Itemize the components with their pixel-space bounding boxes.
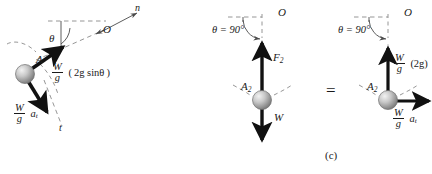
- label-axis-n: n: [135, 3, 140, 13]
- tangent-axis-line-t: [44, 80, 62, 126]
- right-label-angle: θ = 90°: [338, 25, 370, 36]
- physics-figure-c: A θ O n t W g ( 2g sinθ ) W g at θ = 90°…: [0, 0, 432, 174]
- right-label-force-right: W g at: [393, 108, 417, 130]
- right-force-right-expression: a: [409, 114, 414, 125]
- label-point-A: A: [36, 54, 43, 65]
- path-arc-upper: [7, 42, 36, 52]
- angle-arc-theta: [61, 28, 70, 44]
- right-path-arc-right: [400, 85, 418, 95]
- mid-force-up-letter: F: [273, 51, 280, 63]
- mid-force-up-subscript: 2: [280, 56, 284, 65]
- right-angle-arc-90: [369, 20, 386, 39]
- right-label-center-O: O: [404, 7, 412, 18]
- mid-label-point: A2: [241, 81, 251, 92]
- label-force-tangential: W g at: [14, 103, 38, 125]
- label-center-O: O: [103, 24, 111, 35]
- mid-point-letter: A: [241, 80, 248, 92]
- mid-particle-ball: [253, 91, 272, 110]
- mid-label-center-O: O: [278, 7, 286, 18]
- particle-ball-A: [16, 65, 35, 84]
- right-force-up-expression: (2g): [410, 59, 428, 70]
- force-tangential-expression: a: [30, 109, 35, 120]
- equals-sign: =: [326, 82, 336, 99]
- label-axis-t: t: [59, 123, 62, 133]
- force-tangential-subscript: t: [36, 112, 38, 120]
- mid-point-subscript: 2: [248, 85, 252, 94]
- force-tangential-denominator: g: [14, 114, 25, 125]
- mid-label-force-down: W: [274, 112, 283, 123]
- right-label-point: A2: [367, 81, 377, 92]
- mid-angle-arc-90: [243, 20, 260, 39]
- label-force-normal: W g ( 2g sinθ ): [52, 62, 110, 84]
- right-force-right-subscript: t: [415, 117, 417, 125]
- right-point-subscript: 2: [374, 85, 378, 94]
- right-label-force-up: W g (2g): [394, 53, 428, 75]
- force-normal-denominator: g: [52, 73, 63, 84]
- figure-caption: (c): [325, 150, 337, 161]
- right-point-letter: A: [367, 80, 374, 92]
- force-normal-expression: ( 2g sinθ ): [68, 68, 110, 79]
- radius-line-AO: [36, 30, 104, 60]
- label-angle-theta: θ: [49, 33, 54, 44]
- right-force-up-denominator: g: [394, 64, 405, 75]
- mid-path-arc-right: [274, 85, 292, 95]
- right-force-right-denominator: g: [393, 119, 404, 130]
- mid-label-angle: θ = 90°: [212, 25, 244, 36]
- mid-label-force-up: F2: [273, 52, 283, 63]
